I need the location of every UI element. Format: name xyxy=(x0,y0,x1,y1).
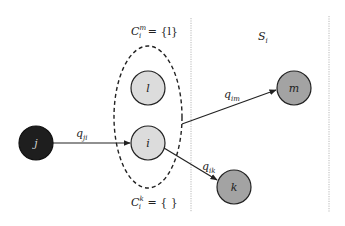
edge-label-qji-base: q xyxy=(76,127,83,140)
edge-label-qik-base: q xyxy=(202,160,209,173)
cluster-top-label: Cmi = {l} xyxy=(131,24,178,40)
region-label-sub: i xyxy=(266,37,268,45)
edge-label-qim-sub: im xyxy=(231,95,240,103)
cluster-top-label-sub: i xyxy=(139,32,141,40)
cluster-bottom-label-rest: = { } xyxy=(144,196,178,209)
edge-label-qik-sub: ik xyxy=(209,167,215,175)
region-label: Si xyxy=(258,30,268,45)
cluster-ellipse xyxy=(114,46,182,188)
node-i: i xyxy=(131,126,165,160)
diagram-canvas: Si Cmi = {l} Cki = { } qji qim qik j xyxy=(0,0,345,226)
cluster-bottom-label-sub: i xyxy=(139,203,141,211)
node-j: j xyxy=(19,126,53,160)
edge-label-qim: qim xyxy=(224,88,240,103)
cluster-bottom-label: Cki = { } xyxy=(131,195,178,211)
diagram-svg: Si Cmi = {l} Cki = { } qji qim qik j xyxy=(0,0,345,226)
edge-label-qim-base: q xyxy=(224,88,231,101)
node-m-label: m xyxy=(289,82,299,95)
node-i-label: i xyxy=(146,137,150,150)
node-k: k xyxy=(217,170,251,204)
edge-label-qji: qji xyxy=(76,127,87,142)
node-l-label: l xyxy=(146,82,150,95)
node-l: l xyxy=(131,71,165,105)
node-k-label: k xyxy=(231,181,238,194)
edge-label-qik: qik xyxy=(202,160,216,175)
cluster-top-label-rest: = {l} xyxy=(144,25,178,38)
node-m: m xyxy=(277,71,311,105)
